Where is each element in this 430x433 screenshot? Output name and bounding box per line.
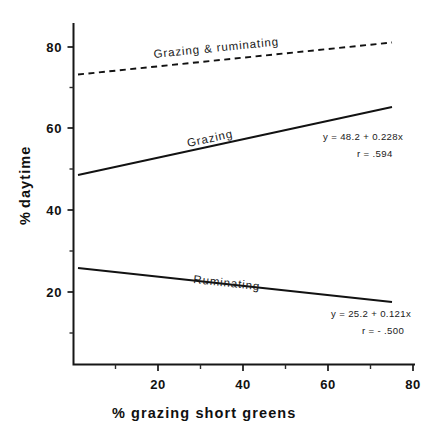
y-axis-tick-labels: 80 60 40 20 xyxy=(46,40,62,300)
annotation-grazing-equation: y = 48.2 + 0.228x r = .594 xyxy=(323,131,403,159)
line-chart: 80 60 40 20 20 40 60 80 xyxy=(0,0,430,433)
y-tick-label-40: 40 xyxy=(46,203,62,218)
ruminating-equation-text: y = 25.2 + 0.121x xyxy=(331,308,411,319)
x-tick-label-60: 60 xyxy=(320,377,336,392)
series-labels: Grazing & ruminating Grazing Ruminating xyxy=(153,35,280,292)
x-tick-label-80: 80 xyxy=(405,377,421,392)
series-label-ruminating: Ruminating xyxy=(193,273,261,292)
y-axis-title-text: daytime xyxy=(17,146,33,209)
y-axis-percent-glyph: % xyxy=(17,212,33,225)
x-axis-percent-glyph: % xyxy=(112,405,125,421)
annotation-ruminating-equation: y = 25.2 + 0.121x r = - .500 xyxy=(331,308,411,336)
x-tick-label-40: 40 xyxy=(235,377,251,392)
grazing-equation-text: y = 48.2 + 0.228x xyxy=(323,131,403,142)
y-tick-label-60: 60 xyxy=(46,121,62,136)
x-tick-label-20: 20 xyxy=(150,377,166,392)
y-tick-label-80: 80 xyxy=(46,40,62,55)
figure-container: 80 60 40 20 20 40 60 80 xyxy=(0,0,430,433)
ruminating-correlation-text: r = - .500 xyxy=(362,325,404,336)
grazing-correlation-text: r = .594 xyxy=(357,148,393,159)
x-axis-title-text: grazing short greens xyxy=(131,405,296,421)
y-tick-label-20: 20 xyxy=(46,285,62,300)
y-axis-title: % daytime xyxy=(17,146,33,226)
x-axis-tick-labels: 20 40 60 80 xyxy=(150,377,421,392)
x-axis-title: % grazing short greens xyxy=(112,405,296,421)
